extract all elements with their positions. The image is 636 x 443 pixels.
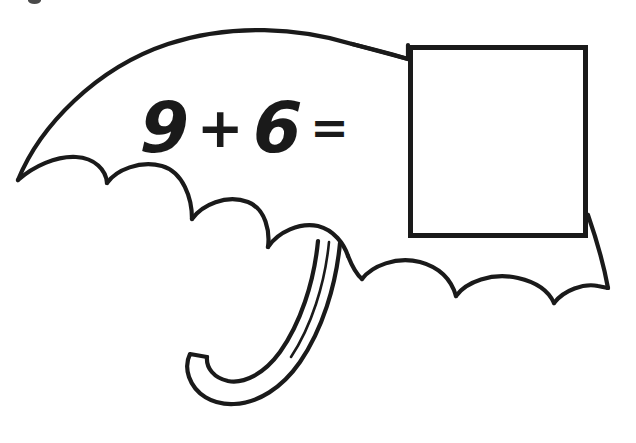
canopy-scallop-left-3 bbox=[192, 199, 268, 247]
canopy-scallop-right-1 bbox=[348, 256, 362, 279]
answer-box[interactable] bbox=[408, 45, 588, 238]
canopy-scallop-center bbox=[268, 225, 348, 256]
canopy-scallop-right-2 bbox=[362, 260, 456, 296]
canopy-scallop-left-2 bbox=[107, 164, 192, 219]
umbrella-handle bbox=[187, 241, 340, 404]
canopy-scallop-right-4 bbox=[554, 285, 608, 303]
answer-input[interactable] bbox=[413, 50, 583, 233]
worksheet-page: 9 + 6 = bbox=[0, 0, 636, 443]
canopy-scallop-left-1 bbox=[18, 157, 107, 183]
canopy-top-arc-right bbox=[352, 44, 408, 59]
canopy-scallop-right-3 bbox=[456, 276, 554, 303]
canopy-right-edge bbox=[588, 215, 608, 288]
handle-highlight-line bbox=[291, 242, 329, 357]
handle-outer-edge bbox=[187, 243, 340, 404]
